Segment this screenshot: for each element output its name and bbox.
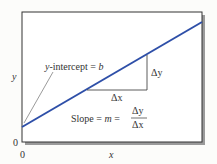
x-axis-label: x — [108, 149, 114, 160]
x-origin-label: 0 — [20, 149, 25, 160]
fraction-denominator: Δx — [132, 119, 143, 130]
delta-y-label: Δy — [151, 67, 162, 78]
delta-x-label: Δx — [111, 92, 122, 103]
intercept-label: y-intercept = b — [44, 61, 103, 72]
y-origin-label: 0 — [13, 137, 18, 148]
slope-intercept-diagram: y-intercept = b Δy Δx Slope = m = Δy Δx … — [0, 0, 217, 164]
y-axis-label: y — [11, 71, 17, 82]
fraction-numerator: Δy — [132, 105, 143, 116]
slope-label: Slope = m = — [71, 113, 120, 124]
